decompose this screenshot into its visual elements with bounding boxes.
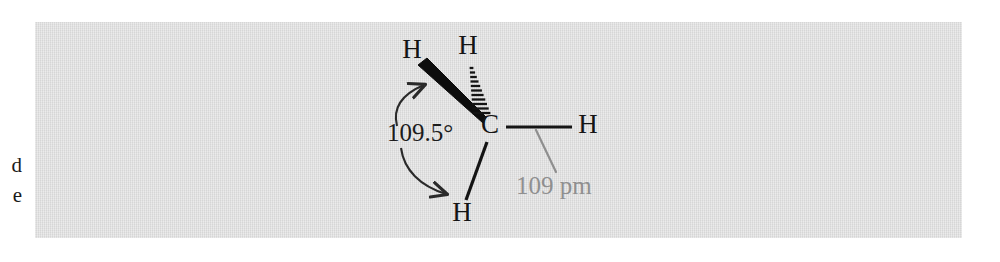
molecule-diagram: C H H H H 109.5° 109 pm: [0, 0, 1000, 262]
atom-label-hydrogen-upper-left: H: [402, 34, 422, 64]
angle-arc-lower: [401, 148, 446, 194]
bond-angle-label: 109.5°: [387, 119, 453, 146]
atom-label-hydrogen-bottom: H: [452, 197, 472, 227]
atom-label-carbon: C: [481, 109, 499, 139]
bond-length-leader-line: [536, 130, 556, 172]
bond-length-label: 109 pm: [516, 172, 592, 199]
atom-label-hydrogen-right: H: [578, 109, 598, 139]
figure-root: d e: [0, 0, 1000, 262]
bond-line-bottom: [466, 142, 487, 200]
atom-label-hydrogen-top: H: [458, 30, 478, 60]
